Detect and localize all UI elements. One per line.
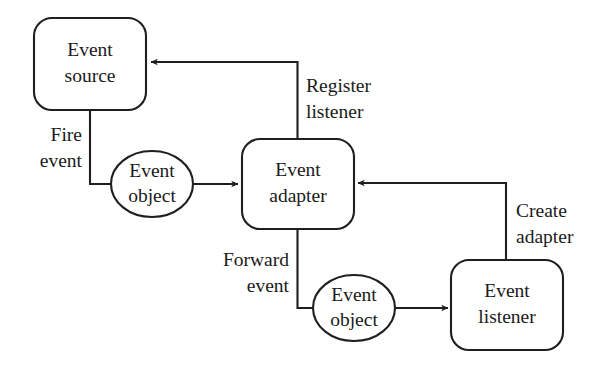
edge-forward-event [298, 229, 314, 308]
node-event-adapter-line2: adapter [269, 185, 327, 206]
event-adapter-diagram: Event source Event adapter Event listene… [0, 0, 609, 366]
diagram-canvas: Event source Event adapter Event listene… [0, 0, 609, 366]
edge-create-adapter [358, 183, 506, 260]
node-event-source[interactable] [34, 18, 146, 110]
node-event-source-line1: Event [67, 39, 113, 60]
edge-label-create-adapter-line1: Create [516, 200, 567, 221]
edge-label-register-listener-line1: Register [306, 75, 371, 96]
edge-label-register-listener-line2: listener [306, 101, 364, 122]
node-event-object-lower-line1: Event [331, 284, 377, 305]
edge-label-forward-event-line2: event [247, 275, 290, 296]
node-event-source-line2: source [65, 65, 116, 86]
edge-label-forward-event-line1: Forward [223, 249, 289, 270]
node-event-listener-line2: listener [478, 306, 536, 327]
node-event-adapter[interactable] [242, 139, 354, 229]
edge-label-fire-event-line2: event [40, 150, 83, 171]
node-event-adapter-line1: Event [275, 159, 321, 180]
node-event-object-upper-line1: Event [129, 160, 175, 181]
edge-label-create-adapter-line2: adapter [516, 226, 574, 247]
edge-register-listener [151, 62, 298, 139]
node-event-object-lower-line2: object [330, 309, 378, 330]
node-event-listener-line1: Event [484, 280, 530, 301]
edge-label-fire-event-line1: Fire [51, 124, 82, 145]
node-event-object-upper-line2: object [128, 185, 176, 206]
node-event-listener[interactable] [451, 260, 563, 350]
edge-fire-event [90, 110, 111, 184]
